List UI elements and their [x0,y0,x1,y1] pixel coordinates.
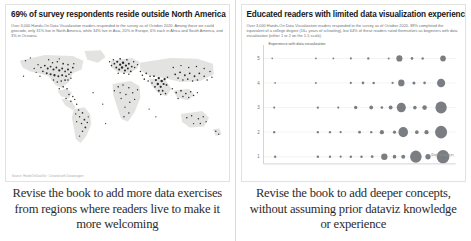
left-chart-title: 69% of survey respondents reside outside… [11,10,224,20]
right-chart-title: Educated readers with limited data visua… [247,10,461,20]
world-map [11,41,224,153]
svg-text:2: 2 [257,130,260,135]
svg-text:5: 5 [257,56,260,61]
left-chart-source: Source: HandsOnDataViz · Created with Da… [12,174,84,178]
bubble-chart-card: Educated readers with limited data visua… [241,4,467,182]
world-map-svg [11,41,224,153]
svg-text:3: 3 [257,105,260,110]
bubble-chart: Experience with data visualization [247,41,461,169]
datawrapper-watermark: Datawrapper [431,153,454,157]
comparison-slide: 69% of survey respondents reside outside… [0,0,471,241]
right-caption-text: Revise the book to add deeper concepts, … [246,186,462,232]
right-panel: Educated readers with limited data visua… [236,0,471,241]
y-axis-title: Experience with data visualization [269,42,339,47]
y-axis-tick-labels: 5 4 3 2 1 [257,56,260,159]
bubble-chart-svg: 5 4 3 2 1 [247,41,461,169]
right-caption: Revise the book to add deeper concepts, … [236,182,471,241]
world-map-card: 69% of survey respondents reside outside… [5,4,230,182]
chart-axis-lines [263,45,455,164]
left-caption: Revise the book to add more data exercis… [0,182,235,241]
left-panel: 69% of survey respondents reside outside… [0,0,236,241]
right-chart-subtitle: Over 3,000 Hands-On Data Visualization r… [247,23,461,38]
left-chart-subtitle: Over 3,000 Hands-On Data Visualization r… [11,23,224,38]
left-caption-text: Revise the book to add more data exercis… [10,186,225,232]
bubble-series [271,56,449,164]
svg-text:1: 1 [257,154,260,159]
svg-text:4: 4 [257,81,260,86]
